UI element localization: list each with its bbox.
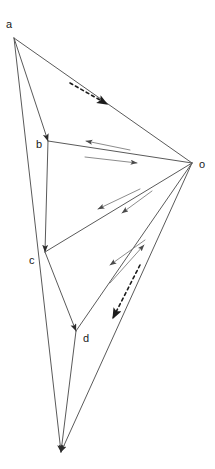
diagram-background [0,0,215,469]
vertex-label-b: b [36,138,42,150]
vertex-label-d: d [83,332,89,344]
vector-diagram-canvas: abcdo [0,0,215,469]
vertex-label-a: a [6,18,13,30]
vector-diagram-svg: abcdo [0,0,215,469]
vertex-label-c: c [29,254,35,266]
vertex-label-o: o [199,158,205,170]
